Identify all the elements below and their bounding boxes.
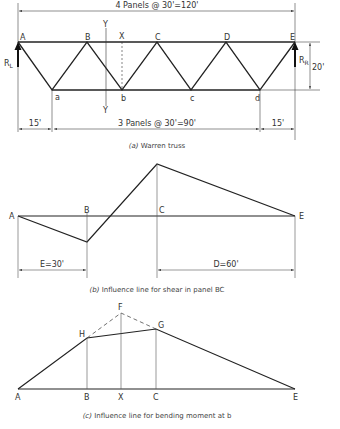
warren-truss: 4 Panels @ 30'=120' 20' Y Y X A B C D E	[4, 1, 324, 150]
moment-label-A: A	[15, 393, 21, 402]
dim-3-panels: 3 Panels @ 30'=90'	[118, 119, 196, 128]
reaction-left-label: RL	[4, 59, 14, 69]
moment-influence-line: A B X C E F G H (c) Influence line for b…	[15, 303, 298, 420]
truss-diagram-figure: 4 Panels @ 30'=120' 20' Y Y X A B C D E	[0, 0, 340, 429]
node-E: E	[290, 33, 295, 42]
label-y-top: Y	[102, 20, 108, 29]
moment-label-F: F	[118, 303, 123, 312]
shear-label-A: A	[9, 212, 15, 221]
top-dimension-label: 4 Panels @ 30'=120'	[115, 1, 198, 10]
moment-label-G: G	[158, 321, 164, 330]
moment-il-dashed	[87, 313, 156, 338]
moment-label-C: C	[153, 393, 159, 402]
moment-label-B: B	[84, 393, 90, 402]
moment-label-E: E	[293, 393, 298, 402]
shear-il-curve	[18, 164, 295, 242]
diagonals	[18, 42, 295, 90]
node-A: A	[20, 33, 26, 42]
truss-members	[18, 42, 295, 90]
shear-label-E: E	[299, 212, 304, 221]
node-d: d	[255, 94, 260, 103]
node-c: c	[190, 94, 194, 103]
node-a: a	[55, 93, 60, 102]
label-y-bottom: Y	[102, 106, 108, 115]
shear-label-C: C	[159, 206, 165, 215]
height-dimension-label: 20'	[312, 63, 324, 72]
caption-a: (a) Warren truss	[129, 142, 186, 150]
node-D: D	[224, 33, 230, 42]
shear-label-B: B	[84, 206, 90, 215]
node-b: b	[121, 94, 126, 103]
caption-c: (c) Influence line for bending moment at…	[83, 412, 232, 420]
node-C: C	[155, 33, 161, 42]
label-x: X	[119, 32, 125, 41]
node-B: B	[85, 33, 91, 42]
moment-label-H: H	[79, 330, 85, 339]
shear-influence-line: A B C E E=30' D=60' (b) Influence line f…	[9, 164, 304, 294]
dim-e-30: E=30'	[40, 260, 64, 269]
dim-right-15: 15'	[272, 119, 284, 128]
moment-label-X: X	[118, 393, 124, 402]
moment-il-curve	[18, 329, 295, 389]
dim-left-15: 15'	[29, 119, 41, 128]
dim-d-60: D=60'	[213, 260, 238, 269]
reaction-right-label: RR	[299, 56, 309, 66]
caption-b: (b) Influence line for shear in panel BC	[90, 286, 225, 294]
